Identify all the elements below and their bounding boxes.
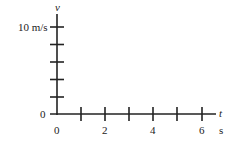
chart-canvas: v 10 m/s 0 0 2 4 6 t s — [0, 0, 232, 146]
y-zero-label: 0 — [40, 108, 46, 120]
y-top-tick-label: 10 m/s — [18, 21, 48, 33]
y-axis-label: v — [55, 1, 60, 13]
x-tick-label-6: 6 — [199, 124, 205, 136]
x-zero-label: 0 — [54, 124, 60, 136]
x-tick-label-2: 2 — [102, 124, 108, 136]
x-axis-label: t — [219, 107, 223, 119]
x-unit-label: s — [219, 124, 223, 136]
velocity-time-chart: v 10 m/s 0 0 2 4 6 t s — [0, 0, 232, 146]
x-tick-label-4: 4 — [150, 124, 156, 136]
